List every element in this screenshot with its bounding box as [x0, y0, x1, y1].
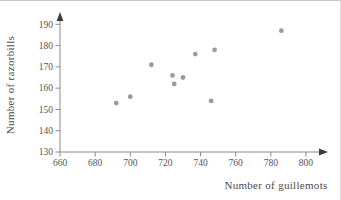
scatter-plot-figure: 6606807007207407607808001301401501601701…	[0, 0, 341, 200]
data-point	[209, 99, 214, 104]
y-tick-label: 140	[39, 126, 54, 136]
y-tick-label: 180	[39, 41, 54, 51]
data-point	[128, 94, 133, 99]
data-point	[181, 75, 186, 80]
x-tick-label: 680	[88, 158, 103, 168]
data-point	[172, 82, 177, 87]
data-point	[114, 101, 119, 106]
data-point	[193, 52, 198, 57]
data-point	[279, 28, 284, 33]
x-tick-label: 720	[158, 158, 173, 168]
x-tick-label: 660	[53, 158, 68, 168]
y-axis-title: Number of razorbills	[4, 36, 16, 134]
plot-canvas: 6606807007207407607808001301401501601701…	[0, 1, 341, 200]
y-axis-arrow-icon	[57, 12, 64, 21]
data-point	[212, 47, 217, 52]
x-axis-title: Number of guillemots	[224, 179, 327, 191]
data-point	[170, 73, 175, 78]
x-tick-label: 700	[123, 158, 138, 168]
x-tick-label: 800	[299, 158, 314, 168]
x-tick-label: 780	[264, 158, 279, 168]
data-point	[149, 62, 154, 67]
x-axis-arrow-icon	[319, 149, 328, 156]
y-tick-label: 170	[39, 62, 54, 72]
y-tick-label: 190	[39, 20, 54, 30]
y-tick-label: 130	[39, 147, 54, 157]
y-tick-label: 160	[39, 83, 54, 93]
y-tick-label: 150	[39, 105, 54, 115]
x-tick-label: 740	[193, 158, 208, 168]
x-tick-label: 760	[229, 158, 244, 168]
